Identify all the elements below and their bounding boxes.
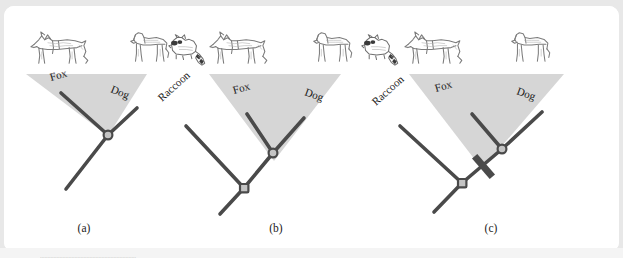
panel-caption-b: (b) <box>269 222 283 235</box>
panel-caption-c: (c) <box>485 222 498 235</box>
cut-off-caption-text: ........................................… <box>40 253 600 258</box>
tree-node-c-root <box>458 179 466 187</box>
tree-node-b-root <box>240 184 248 192</box>
panel-caption-a: (a) <box>78 222 91 235</box>
tree-node-b-clade <box>269 149 278 158</box>
phylogenetic-tree-figure: Fox Dog Raccoon Fox Dog <box>4 6 619 252</box>
figure-background <box>4 6 619 252</box>
figure-card: Fox Dog Raccoon Fox Dog <box>4 6 619 252</box>
tree-node-c-clade <box>498 145 507 154</box>
tree-node-a-1 <box>104 131 113 140</box>
